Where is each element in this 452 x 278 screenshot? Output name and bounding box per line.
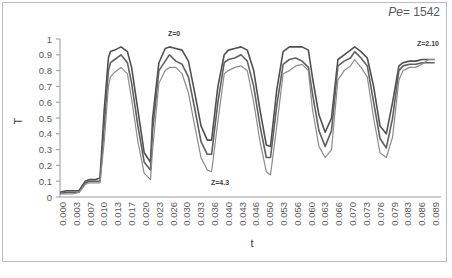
x-tick-label: 0.086 — [416, 202, 427, 226]
x-tick-label: 0.020 — [140, 202, 151, 226]
y-tick-label: 0.1 — [39, 176, 52, 187]
x-tick-label: 0.026 — [168, 202, 179, 226]
y-tick-label: 1 — [47, 34, 52, 45]
y-tick-label: 0.3 — [39, 144, 52, 155]
pe-symbol: Pe — [388, 5, 403, 19]
y-axis: 00.10.20.30.40.50.60.70.80.91 — [39, 34, 60, 203]
x-tick-label: 0.003 — [71, 202, 82, 226]
peclet-number-label: Pe= 1542 — [388, 5, 440, 19]
y-tick-label: 0.6 — [39, 97, 52, 108]
x-tick-label: 0.033 — [195, 202, 206, 226]
x-tick-label: 0.010 — [98, 202, 109, 226]
annotation-z2-10: Z=2.10 — [417, 40, 439, 47]
x-tick-label: 0.060 — [306, 202, 317, 226]
y-tick-label: 0.9 — [39, 49, 52, 60]
x-tick-label: 0.036 — [209, 202, 220, 226]
y-tick-label: 0.5 — [39, 113, 52, 124]
x-tick-label: 0.079 — [389, 202, 400, 226]
x-tick-label: 0.083 — [402, 202, 413, 226]
x-tick-label: 0.070 — [347, 202, 358, 226]
x-tick-label: 0.050 — [264, 202, 275, 226]
x-tick-label: 0.046 — [250, 202, 261, 226]
x-tick-label: 0.076 — [375, 202, 386, 226]
annotation-z0: Z=0 — [168, 30, 180, 37]
x-tick-label: 0.063 — [319, 202, 330, 226]
x-tick-label: 0.066 — [333, 202, 344, 226]
y-tick-label: 0.2 — [39, 160, 52, 171]
annotation-z4-3: Z=4.3 — [211, 179, 229, 186]
x-tick-label: 0.030 — [181, 202, 192, 226]
series-line-1 — [60, 47, 435, 192]
x-tick-label: 0.013 — [112, 202, 123, 226]
x-tick-label: 0.040 — [223, 202, 234, 226]
y-tick-label: 0.4 — [39, 128, 52, 139]
x-tick-label: 0.007 — [85, 202, 96, 226]
x-tick-label: 0.017 — [126, 202, 137, 226]
y-axis-title: T — [12, 117, 24, 124]
x-tick-label: 0.043 — [237, 202, 248, 226]
x-tick-label: 0.089 — [430, 202, 441, 226]
pe-value: = 1542 — [403, 5, 440, 19]
line-chart: 00.10.20.30.40.50.60.70.80.91 0.0000.003… — [0, 0, 452, 278]
y-tick-label: 0 — [47, 192, 52, 203]
x-tick-label: 0.000 — [57, 202, 68, 226]
x-tick-label: 0.056 — [292, 202, 303, 226]
y-tick-label: 0.7 — [39, 81, 52, 92]
x-tick-label: 0.053 — [278, 202, 289, 226]
x-tick-label: 0.023 — [154, 202, 165, 226]
x-axis-title: t — [250, 237, 253, 249]
y-tick-label: 0.8 — [39, 65, 52, 76]
x-axis: 0.0000.0030.0070.0100.0130.0170.0200.023… — [57, 197, 441, 226]
x-tick-label: 0.073 — [361, 202, 372, 226]
series-layer — [60, 47, 435, 194]
